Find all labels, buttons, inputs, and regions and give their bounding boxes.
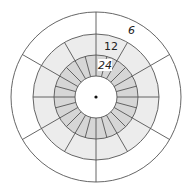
label-inner-group: 24 [98,59,112,72]
label-inner-24: 24 [98,59,112,72]
label-middle-12: 12 [104,40,118,53]
polar-grid-diagram: 6 12 24 [0,0,190,195]
center-dot [94,95,97,98]
label-middle-group: 12 [104,40,118,53]
label-outer-group: 6 [128,24,135,37]
label-outer-6: 6 [128,24,135,37]
